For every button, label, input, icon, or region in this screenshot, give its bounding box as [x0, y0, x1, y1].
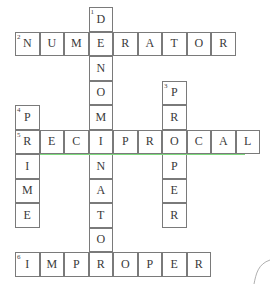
cell-letter: U — [47, 36, 56, 51]
cell-letter: O — [170, 134, 179, 149]
grid-cell[interactable]: O — [113, 252, 138, 277]
grid-cell[interactable]: R — [187, 252, 212, 277]
grid-cell[interactable]: M — [64, 32, 89, 57]
grid-cell[interactable]: R — [138, 130, 163, 155]
clue-number: 4 — [17, 106, 21, 114]
grid-cell[interactable]: R — [211, 32, 236, 57]
cell-letter: C — [72, 134, 80, 149]
cell-letter: A — [145, 36, 154, 51]
cell-letter: P — [171, 85, 178, 100]
grid-cell[interactable]: E — [162, 179, 187, 204]
grid-cell[interactable]: I — [15, 154, 40, 179]
cell-letter: M — [46, 257, 57, 272]
grid-cell[interactable]: U — [40, 32, 65, 57]
grid-cell[interactable]: E — [40, 130, 65, 155]
grid-cell[interactable]: 4P — [15, 105, 40, 130]
grid-cell[interactable]: A — [211, 130, 236, 155]
clue-number: 1 — [91, 8, 95, 16]
grid-cell[interactable]: C — [187, 130, 212, 155]
grid-cell[interactable]: L — [236, 130, 261, 155]
grid-cell[interactable]: A — [138, 32, 163, 57]
grid-cell[interactable]: P — [113, 130, 138, 155]
cell-letter: A — [96, 183, 105, 198]
cell-letter: D — [96, 12, 105, 27]
grid-cell[interactable]: M — [40, 252, 65, 277]
grid-cell[interactable]: O — [187, 32, 212, 57]
grid-cell[interactable]: E — [15, 203, 40, 228]
cell-letter: O — [194, 36, 203, 51]
grid-cell[interactable]: O — [89, 81, 114, 106]
grid-cell[interactable]: 5R — [15, 130, 40, 155]
cell-letter: A — [219, 134, 228, 149]
grid-cell[interactable]: 2N — [15, 32, 40, 57]
crossword-grid: 1DENOMINATOR2NUMRATOR3PROPER4P5RIMEECPRC… — [0, 0, 272, 284]
clue-number: 2 — [17, 33, 21, 41]
cell-letter: C — [195, 134, 203, 149]
cell-letter: E — [97, 36, 104, 51]
grid-cell[interactable]: O — [89, 228, 114, 253]
cell-letter: R — [97, 257, 105, 272]
cell-letter: O — [121, 257, 130, 272]
clue-number: 3 — [164, 82, 168, 90]
cell-letter: R — [23, 134, 31, 149]
clue-number: 5 — [17, 131, 21, 139]
cell-letter: O — [96, 85, 105, 100]
cell-letter: N — [23, 36, 32, 51]
clue-number: 6 — [17, 253, 21, 261]
cell-letter: E — [171, 257, 178, 272]
grid-cell[interactable]: A — [89, 179, 114, 204]
cell-letter: R — [195, 257, 203, 272]
grid-cell[interactable]: N — [89, 56, 114, 81]
grid-cell[interactable]: P — [64, 252, 89, 277]
cell-letter: R — [146, 134, 154, 149]
cell-letter: N — [96, 159, 105, 174]
pencil-mark — [250, 258, 272, 284]
cell-letter: E — [24, 208, 31, 223]
grid-cell[interactable]: R — [162, 203, 187, 228]
cell-letter: L — [244, 134, 251, 149]
highlight-line — [40, 154, 245, 155]
cell-letter: E — [171, 183, 178, 198]
cell-letter: E — [48, 134, 55, 149]
grid-cell[interactable]: O — [162, 130, 187, 155]
grid-cell[interactable]: 6I — [15, 252, 40, 277]
grid-cell[interactable]: M — [15, 179, 40, 204]
grid-cell[interactable]: R — [89, 252, 114, 277]
cell-letter: R — [121, 36, 129, 51]
cell-letter: P — [171, 159, 178, 174]
cell-letter: M — [71, 36, 82, 51]
grid-cell[interactable]: R — [162, 105, 187, 130]
cell-letter: M — [95, 110, 106, 125]
cell-letter: R — [219, 36, 227, 51]
cell-letter: I — [25, 159, 29, 174]
grid-cell[interactable]: E — [162, 252, 187, 277]
cell-letter: I — [99, 134, 103, 149]
grid-cell[interactable]: 1D — [89, 7, 114, 32]
cell-letter: P — [24, 110, 31, 125]
cell-letter: R — [170, 110, 178, 125]
grid-cell[interactable]: P — [162, 154, 187, 179]
grid-cell[interactable]: I — [89, 130, 114, 155]
cell-letter: N — [96, 61, 105, 76]
cell-letter: P — [122, 134, 129, 149]
cell-letter: P — [146, 257, 153, 272]
grid-cell[interactable]: P — [138, 252, 163, 277]
grid-cell[interactable]: N — [89, 154, 114, 179]
grid-cell[interactable]: C — [64, 130, 89, 155]
grid-cell[interactable]: T — [162, 32, 187, 57]
grid-cell[interactable]: M — [89, 105, 114, 130]
cell-letter: O — [96, 232, 105, 247]
cell-letter: P — [73, 257, 80, 272]
grid-cell[interactable]: 3P — [162, 81, 187, 106]
grid-cell[interactable]: T — [89, 203, 114, 228]
cell-letter: R — [170, 208, 178, 223]
cell-letter: T — [97, 208, 104, 223]
cell-letter: M — [22, 183, 33, 198]
grid-cell[interactable]: E — [89, 32, 114, 57]
cell-letter: T — [171, 36, 178, 51]
cell-letter: I — [25, 257, 29, 272]
grid-cell[interactable]: R — [113, 32, 138, 57]
